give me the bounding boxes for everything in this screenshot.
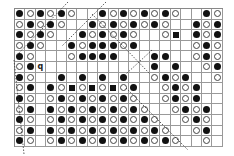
diagonal-guide-lines	[0, 0, 234, 156]
